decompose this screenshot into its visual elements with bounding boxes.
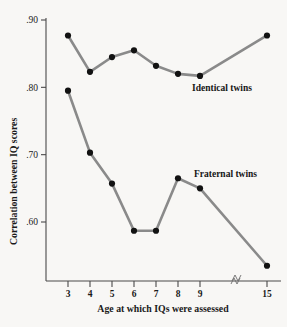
data-point-marker — [65, 88, 71, 94]
x-tick-label: 15 — [262, 289, 272, 299]
series-label-2: Fraternal twins — [194, 169, 257, 179]
data-point-marker — [131, 228, 137, 234]
y-tick-label: .70 — [26, 150, 38, 160]
y-axis-ticks: .90.80.70.60 — [26, 15, 46, 227]
series-label-layer: Identical twinsFraternal twins — [192, 83, 257, 179]
x-tick-label: 8 — [176, 289, 181, 299]
series-line-1 — [68, 35, 267, 75]
x-axis-ticks: 345678915 — [66, 281, 272, 299]
data-point-marker — [153, 63, 159, 69]
data-point-marker — [264, 32, 270, 38]
x-tick-label: 6 — [132, 289, 137, 299]
y-tick-label: .90 — [26, 15, 38, 25]
y-axis-title: Correlation between IQ scores — [8, 118, 19, 245]
x-tick-label: 3 — [66, 289, 71, 299]
data-point-marker — [109, 54, 115, 60]
data-point-marker — [175, 71, 181, 77]
data-series-layer — [65, 32, 270, 268]
data-point-marker — [131, 47, 137, 53]
data-point-marker — [65, 32, 71, 38]
data-point-marker — [175, 175, 181, 181]
x-tick-label: 9 — [198, 289, 203, 299]
y-tick-label: .80 — [26, 83, 38, 93]
x-tick-label: 7 — [154, 289, 159, 299]
x-axis-title: Age at which IQs were assessed — [97, 303, 229, 314]
data-point-marker — [197, 185, 203, 191]
chart-figure: .90.80.70.60 345678915 Identical twinsFr… — [0, 0, 287, 327]
data-point-marker — [197, 73, 203, 79]
chart-canvas: .90.80.70.60 345678915 Identical twinsFr… — [0, 0, 287, 327]
series-label-1: Identical twins — [192, 83, 252, 93]
data-point-marker — [87, 69, 93, 75]
data-point-marker — [264, 263, 270, 269]
data-point-marker — [109, 181, 115, 187]
x-tick-label: 4 — [88, 289, 93, 299]
data-point-marker — [87, 150, 93, 156]
x-axis-break-mark — [231, 275, 241, 284]
x-tick-label: 5 — [110, 289, 115, 299]
y-tick-label: .60 — [26, 217, 38, 227]
data-point-marker — [153, 228, 159, 234]
